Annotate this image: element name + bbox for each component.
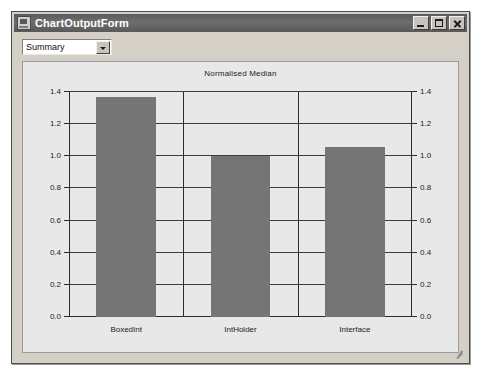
axis-tick xyxy=(412,316,417,317)
plot-area: 0.00.00.20.20.40.40.60.60.80.81.01.01.21… xyxy=(69,92,412,317)
y-axis-tick-label: 1.4 xyxy=(420,88,431,96)
window-title: ChartOutputForm xyxy=(35,16,413,30)
window-controls xyxy=(413,16,465,30)
axis-tick xyxy=(412,187,417,188)
window-client-area: Summary Normalised Median 0.00.00.20.20.… xyxy=(14,33,467,361)
y-axis-tick-label: 1.4 xyxy=(50,88,61,96)
chart-panel: Normalised Median 0.00.00.20.20.40.40.60… xyxy=(22,61,459,353)
y-axis-tick-label: 0.6 xyxy=(420,217,431,225)
axis-tick xyxy=(412,123,417,124)
y-axis-tick-label: 0.8 xyxy=(420,184,431,192)
maximize-icon[interactable] xyxy=(431,16,447,30)
axis-tick xyxy=(412,284,417,285)
axis-tick xyxy=(412,155,417,156)
mode-select[interactable]: Summary xyxy=(22,39,112,55)
y-axis-tick-label: 1.2 xyxy=(50,120,61,128)
screenshot-root: ChartOutputForm Summary Normalised Media… xyxy=(0,0,481,380)
gridline xyxy=(69,91,412,92)
y-axis-tick-label: 0.6 xyxy=(50,217,61,225)
y-axis-tick-label: 1.0 xyxy=(420,152,431,160)
y-axis-tick-label: 1.0 xyxy=(50,152,61,160)
axis-tick xyxy=(64,155,69,156)
y-axis-tick-label: 1.2 xyxy=(420,120,431,128)
minimize-icon[interactable] xyxy=(413,16,429,30)
axis-tick xyxy=(64,220,69,221)
axis-tick xyxy=(412,220,417,221)
axis-tick xyxy=(64,187,69,188)
category-separator xyxy=(298,92,299,317)
y-axis-tick-label: 0.0 xyxy=(420,313,431,321)
axis-tick xyxy=(64,316,69,317)
bar xyxy=(96,97,155,317)
category-separator xyxy=(183,92,184,317)
chart-title: Normalised Median xyxy=(23,69,458,78)
axis-tick xyxy=(412,252,417,253)
y-axis-left xyxy=(69,92,70,317)
x-axis-category-label: Interface xyxy=(298,325,412,334)
y-axis-tick-label: 0.8 xyxy=(50,184,61,192)
x-axis-category-label: IntHolder xyxy=(183,325,297,334)
x-axis-category-label: BoxedInt xyxy=(69,325,183,334)
axis-tick xyxy=(64,252,69,253)
chart-output-window: ChartOutputForm Summary Normalised Media… xyxy=(11,11,470,364)
y-axis-tick-label: 0.2 xyxy=(50,281,61,289)
y-axis-tick-label: 0.0 xyxy=(50,313,61,321)
y-axis-tick-label: 0.4 xyxy=(420,249,431,257)
resize-grip[interactable] xyxy=(453,347,465,359)
form-icon xyxy=(17,16,31,30)
axis-tick xyxy=(64,123,69,124)
axis-tick xyxy=(64,91,69,92)
y-axis-tick-label: 0.2 xyxy=(420,281,431,289)
window-titlebar[interactable]: ChartOutputForm xyxy=(14,14,467,32)
mode-select-value: Summary xyxy=(23,41,96,53)
axis-tick xyxy=(412,91,417,92)
chevron-down-icon[interactable] xyxy=(96,41,110,54)
close-icon[interactable] xyxy=(449,16,465,30)
bar xyxy=(211,156,270,317)
y-axis-tick-label: 0.4 xyxy=(50,249,61,257)
bar xyxy=(325,147,384,317)
axis-tick xyxy=(64,284,69,285)
